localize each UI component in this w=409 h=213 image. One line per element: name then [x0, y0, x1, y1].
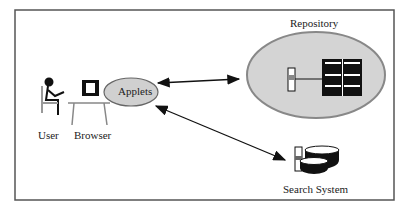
database-server-icon [295, 146, 339, 174]
browser-label: Browser [74, 129, 111, 141]
applets-search-arrow [156, 106, 285, 160]
architecture-diagram [0, 0, 409, 213]
user-icon [42, 79, 64, 116]
applets-repository-arrow [158, 79, 239, 83]
applets-label: Applets [118, 85, 152, 97]
search-system-label: Search System [283, 183, 348, 195]
repository-label: Repository [290, 17, 338, 29]
computer-icon [68, 80, 110, 125]
user-label: User [38, 129, 59, 141]
repository-node [247, 32, 385, 118]
